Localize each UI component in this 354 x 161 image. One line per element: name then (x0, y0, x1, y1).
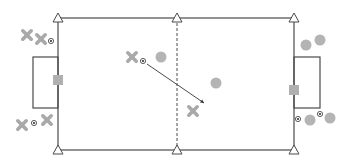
player-circle-icon (301, 40, 312, 51)
goal-right (289, 85, 299, 95)
player-x-icon (23, 31, 31, 39)
ball-center (33, 122, 35, 124)
player-x-icon (189, 107, 197, 115)
player-circle-icon (305, 115, 316, 126)
ball-center (319, 113, 321, 115)
player-x-icon (128, 53, 136, 61)
player-x-icon (43, 116, 51, 124)
ball-center (297, 118, 299, 120)
player-circle-icon (156, 52, 167, 63)
goal-box-right (294, 57, 320, 108)
player-x-icon (18, 121, 26, 129)
drill-diagram: Soccer drill diagram (0, 0, 354, 161)
player-circle-icon (315, 35, 326, 46)
goal-left (53, 75, 63, 85)
ball-center (142, 60, 144, 62)
player-circle-icon (211, 78, 222, 89)
player-circle-icon (325, 113, 336, 124)
ball-center (50, 40, 52, 42)
soccer-field (0, 0, 354, 161)
player-x-icon (37, 35, 45, 43)
pass-arrow (147, 64, 204, 103)
